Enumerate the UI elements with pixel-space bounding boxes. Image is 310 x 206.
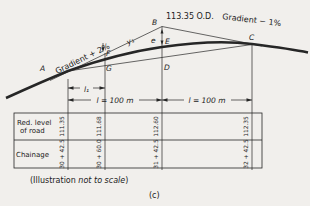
note-italic: not to scale (78, 176, 125, 185)
point-F-label: F (106, 49, 111, 58)
span-right-arrowhead-right-icon (247, 98, 253, 101)
reduced-level-value: 111.68 (96, 116, 102, 137)
l1-arrowhead-right-icon (100, 86, 106, 89)
span-left-label: l = 100 m (96, 96, 133, 105)
point-C-label: C (249, 33, 255, 42)
chainage-value: 32 + 42.5 (243, 139, 249, 169)
vertical-curve-diagram-page: l₁ l = 100 m l = 100 m Gradient + 2% 113… (0, 0, 310, 206)
note-prefix: (Illustration (30, 176, 78, 185)
reduced-level-value: 112.35 (243, 116, 249, 137)
figure-caption: (c) (149, 191, 160, 200)
l1-arrowhead-left-icon (68, 86, 74, 89)
point-A-label: A (39, 64, 45, 73)
point-B-label: B (152, 18, 157, 27)
row-label-chainage: Chainage (16, 151, 49, 159)
od-level-label: 113.35 O.D. (166, 12, 214, 21)
diagram-canvas: l₁ l = 100 m l = 100 m Gradient + 2% 113… (0, 0, 310, 206)
reduced-level-value: 112.60 (153, 116, 159, 137)
e-offset-label: e (151, 36, 156, 45)
point-E-label: E (165, 37, 170, 46)
gradient-right-label: Gradient − 1% (222, 12, 282, 28)
not-to-scale-note: (Illustration not to scale) (30, 176, 128, 185)
chainage-value: 31 + 42.5 (153, 139, 159, 169)
chainage-value: 30 + 42.5 (59, 139, 65, 169)
point-D-label: D (164, 63, 170, 72)
note-suffix: ) (125, 176, 128, 185)
span-left-arrowhead-left-icon (68, 98, 74, 101)
e-arrowhead-down-icon (161, 41, 164, 46)
span-left-arrowhead-right-icon (157, 98, 163, 101)
span-right-label: l = 100 m (188, 96, 225, 105)
chainage-value: 30 + 60.0 (96, 139, 102, 169)
row-label-reduced-level-line1: Red. level (17, 119, 51, 127)
span-right-arrowhead-left-icon (162, 98, 168, 101)
reduced-level-value: 111.35 (59, 116, 65, 137)
l1-dim-label: l₁ (84, 85, 89, 94)
e-arrowhead-up-icon (161, 29, 164, 34)
row-label-reduced-level-line2: of road (20, 127, 45, 135)
point-G-label: G (106, 64, 112, 73)
y1-offset-label: y₁ (124, 35, 136, 47)
road-curve (6, 42, 308, 98)
